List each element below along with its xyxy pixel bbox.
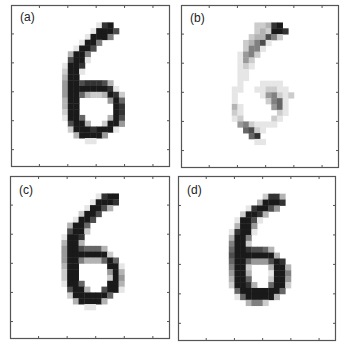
image-pixel bbox=[79, 211, 85, 217]
image-pixel bbox=[246, 211, 252, 217]
image-pixel bbox=[237, 57, 243, 63]
digit-image-a bbox=[11, 5, 170, 167]
image-pixel bbox=[260, 22, 266, 28]
image-pixel bbox=[234, 288, 240, 294]
image-pixel bbox=[240, 217, 246, 223]
image-pixel bbox=[91, 132, 97, 138]
image-pixel bbox=[73, 281, 79, 287]
image-pixel bbox=[263, 259, 269, 265]
image-pixel bbox=[62, 63, 68, 69]
image-pixel bbox=[280, 288, 286, 294]
panel-a: (a) bbox=[11, 5, 170, 167]
image-pixel bbox=[277, 22, 283, 28]
panel-d: (d) bbox=[178, 176, 336, 341]
image-pixel bbox=[271, 22, 277, 28]
image-pixel bbox=[84, 211, 90, 217]
image-pixel bbox=[73, 63, 79, 69]
image-pixel bbox=[96, 252, 102, 258]
image-pixel bbox=[85, 92, 91, 98]
image-pixel bbox=[249, 57, 255, 63]
image-pixel bbox=[101, 252, 107, 258]
image-pixel bbox=[254, 87, 260, 93]
image-pixel bbox=[280, 270, 286, 276]
image-pixel bbox=[108, 121, 114, 127]
digit-image-b bbox=[181, 5, 339, 168]
image-pixel bbox=[280, 259, 286, 265]
image-pixel bbox=[240, 282, 246, 288]
image-pixel bbox=[240, 259, 246, 265]
image-pixel bbox=[271, 121, 277, 127]
image-pixel bbox=[85, 34, 91, 40]
image-pixel bbox=[237, 110, 243, 116]
panel-c: (c) bbox=[10, 176, 170, 339]
image-pixel bbox=[79, 228, 85, 234]
image-pixel bbox=[113, 281, 119, 287]
image-pixel bbox=[229, 276, 235, 282]
image-pixel bbox=[260, 87, 266, 93]
image-pixel bbox=[229, 264, 235, 270]
image-pixel bbox=[108, 115, 114, 121]
image-pixel bbox=[274, 276, 280, 282]
image-pixel bbox=[260, 139, 266, 145]
image-pixel bbox=[274, 253, 280, 259]
image-pixel bbox=[85, 80, 91, 86]
image-pixel bbox=[62, 69, 68, 75]
image-pixel bbox=[101, 287, 107, 293]
image-pixel bbox=[61, 258, 67, 264]
image-pixel bbox=[246, 288, 252, 294]
image-pixel bbox=[79, 223, 85, 229]
image-pixel bbox=[102, 86, 108, 92]
image-pixel bbox=[232, 98, 238, 104]
image-pixel bbox=[243, 63, 249, 69]
image-pixel bbox=[254, 52, 260, 58]
image-pixel bbox=[237, 52, 243, 58]
image-pixel bbox=[113, 86, 119, 92]
image-pixel bbox=[73, 103, 79, 109]
image-pixel bbox=[84, 298, 90, 304]
image-pixel bbox=[268, 200, 274, 206]
image-pixel bbox=[84, 287, 90, 293]
image-pixel bbox=[90, 292, 96, 298]
image-pixel bbox=[68, 121, 74, 127]
image-pixel bbox=[61, 252, 67, 258]
image-pixel bbox=[62, 103, 68, 109]
image-pixel bbox=[90, 252, 96, 258]
image-pixel bbox=[85, 127, 91, 133]
image-pixel bbox=[62, 115, 68, 121]
image-pixel bbox=[73, 127, 79, 133]
image-pixel bbox=[119, 103, 125, 109]
image-pixel bbox=[237, 121, 243, 127]
image-pixel bbox=[240, 288, 246, 294]
image-pixel bbox=[108, 86, 114, 92]
image-pixel bbox=[251, 294, 257, 300]
image-pixel bbox=[79, 298, 85, 304]
image-pixel bbox=[68, 98, 74, 104]
image-pixel bbox=[119, 115, 125, 121]
image-pixel bbox=[73, 98, 79, 104]
image-pixel bbox=[277, 104, 283, 110]
image-pixel bbox=[79, 92, 85, 98]
image-pixel bbox=[280, 194, 286, 200]
image-pixel bbox=[232, 104, 238, 110]
image-pixel bbox=[266, 81, 272, 87]
image-pixel bbox=[68, 109, 74, 115]
image-pixel bbox=[274, 288, 280, 294]
image-pixel bbox=[246, 205, 252, 211]
image-pixel bbox=[246, 217, 252, 223]
digit-image-d bbox=[178, 176, 336, 341]
image-pixel bbox=[271, 28, 277, 34]
image-pixel bbox=[73, 234, 79, 240]
image-pixel bbox=[234, 282, 240, 288]
image-pixel bbox=[113, 275, 119, 281]
image-pixel bbox=[268, 270, 274, 276]
image-pixel bbox=[237, 87, 243, 93]
image-pixel bbox=[107, 275, 113, 281]
image-pixel bbox=[246, 264, 252, 270]
image-pixel bbox=[113, 127, 119, 133]
image-pixel bbox=[246, 241, 252, 247]
image-pixel bbox=[73, 223, 79, 229]
image-pixel bbox=[288, 92, 294, 98]
image-pixel bbox=[73, 109, 79, 115]
image-pixel bbox=[263, 211, 269, 217]
image-pixel bbox=[277, 28, 283, 34]
